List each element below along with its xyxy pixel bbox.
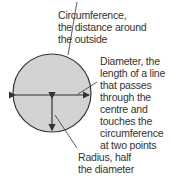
- label-line: Diameter, the: [100, 55, 165, 67]
- label-line: the distance around: [58, 21, 146, 33]
- label-line: circumference: [100, 127, 165, 139]
- circumference-label: Circumference, the distance around the o…: [58, 9, 146, 45]
- label-line: length of a line: [100, 67, 165, 79]
- label-line: through the: [100, 91, 165, 103]
- radius-label: Radius, half the diameter: [78, 151, 134, 175]
- label-line: centre and: [100, 103, 165, 115]
- label-line: the outside: [58, 33, 146, 45]
- label-line: touches the: [100, 115, 165, 127]
- label-line: the diameter: [78, 163, 134, 175]
- diameter-label: Diameter, the length of a line that pass…: [100, 55, 165, 151]
- label-line: Radius, half: [78, 151, 134, 163]
- label-line: at two points: [100, 139, 165, 151]
- label-line: Circumference,: [58, 9, 146, 21]
- label-line: that passes: [100, 79, 165, 91]
